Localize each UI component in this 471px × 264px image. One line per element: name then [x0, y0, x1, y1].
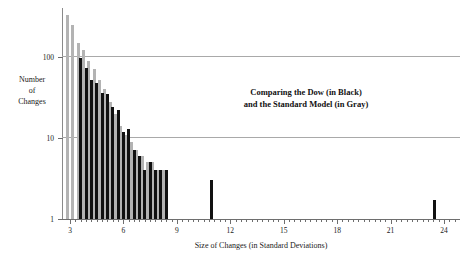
bar-dow-10 [133, 150, 136, 219]
x-minor-tick [407, 219, 408, 222]
x-minor-tick [326, 219, 327, 222]
y-tick-10 [58, 138, 63, 139]
bar-dow-8 [122, 132, 125, 220]
x-minor-tick [172, 219, 173, 222]
x-minor-tick [86, 219, 87, 222]
x-minor-tick [107, 219, 108, 222]
x-minor-tick [81, 219, 82, 222]
x-tick-label-24: 24 [440, 226, 448, 235]
x-minor-tick [161, 219, 162, 222]
x-minor-tick [220, 219, 221, 222]
chart-annotation: Comparing the Dow (in Black) and the Sta… [206, 86, 406, 110]
x-minor-tick [198, 219, 199, 222]
x-minor-tick [369, 219, 370, 222]
bar-dow-13 [149, 162, 152, 219]
bar-dow-9 [127, 129, 130, 219]
x-major-tick-18 [337, 219, 338, 224]
bar-dow-11 [138, 156, 141, 219]
bar-dow-14 [154, 170, 157, 219]
x-major-tick-21 [391, 219, 392, 224]
x-minor-tick [358, 219, 359, 222]
x-minor-tick [166, 219, 167, 222]
bar-dow-7 [117, 110, 120, 219]
bar-dow-4 [101, 93, 104, 219]
x-minor-tick [401, 219, 402, 222]
x-minor-tick [236, 219, 237, 222]
x-minor-tick [139, 219, 140, 222]
annotation-line-1: Comparing the Dow (in Black) [206, 86, 406, 98]
x-minor-tick [353, 219, 354, 222]
x-tick-label-18: 18 [333, 226, 341, 235]
x-minor-tick [113, 219, 114, 222]
x-major-tick-9 [177, 219, 178, 224]
x-minor-tick [294, 219, 295, 222]
bar-dow-12 [143, 170, 146, 219]
x-minor-tick [134, 219, 135, 222]
y-axis-label-line-1: Number [8, 74, 56, 85]
x-minor-tick [278, 219, 279, 222]
x-minor-tick [225, 219, 226, 222]
bar-dow-2 [90, 80, 93, 219]
x-minor-tick [182, 219, 183, 222]
x-minor-tick [348, 219, 349, 222]
x-minor-tick [273, 219, 274, 222]
x-minor-tick [241, 219, 242, 222]
x-major-tick-3 [70, 219, 71, 224]
x-tick-label-3: 3 [68, 226, 72, 235]
x-tick-label-12: 12 [227, 226, 235, 235]
x-minor-tick [97, 219, 98, 222]
x-minor-tick [204, 219, 205, 222]
x-minor-tick [150, 219, 151, 222]
x-minor-tick [102, 219, 103, 222]
x-tick-label-15: 15 [280, 226, 288, 235]
gridline-y-100 [62, 56, 460, 57]
bar-dow-6 [111, 107, 114, 219]
x-minor-tick [246, 219, 247, 222]
x-major-tick-15 [284, 219, 285, 224]
x-minor-tick [209, 219, 210, 222]
bar-model-0 [66, 15, 69, 219]
y-tick-100 [58, 57, 63, 58]
bar-dow-18 [433, 200, 436, 219]
bar-dow-16 [165, 170, 168, 219]
x-minor-tick [155, 219, 156, 222]
bar-model-1 [71, 25, 74, 219]
x-minor-tick [433, 219, 434, 222]
y-tick-label-100: 100 [28, 52, 54, 61]
x-minor-tick [364, 219, 365, 222]
x-minor-tick [396, 219, 397, 222]
x-minor-tick [289, 219, 290, 222]
x-minor-tick [193, 219, 194, 222]
x-minor-tick [118, 219, 119, 222]
annotation-line-2: and the Standard Model (in Gray) [206, 98, 406, 110]
bar-dow-1 [85, 68, 88, 219]
y-axis-label: Number of Changes [8, 74, 56, 107]
y-tick-1 [58, 219, 63, 220]
x-minor-tick [375, 219, 376, 222]
x-minor-tick [455, 219, 456, 222]
bar-dow-0 [79, 58, 82, 219]
x-tick-label-6: 6 [122, 226, 126, 235]
x-minor-tick [380, 219, 381, 222]
x-tick-label-9: 9 [175, 226, 179, 235]
plot-area [62, 8, 460, 219]
x-major-tick-24 [444, 219, 445, 224]
y-tick-label-10: 10 [28, 133, 54, 142]
x-tick-label-21: 21 [387, 226, 395, 235]
bar-dow-15 [159, 170, 162, 219]
bar-dow-5 [106, 94, 109, 219]
y-axis-label-line-2: of [8, 85, 56, 96]
x-minor-tick [423, 219, 424, 222]
x-major-tick-12 [230, 219, 231, 224]
x-minor-tick [75, 219, 76, 222]
x-axis-label: Size of Changes (in Standard Deviations) [62, 241, 460, 250]
x-minor-tick [214, 219, 215, 222]
x-minor-tick [439, 219, 440, 222]
x-minor-tick [252, 219, 253, 222]
x-minor-tick [145, 219, 146, 222]
x-minor-tick [129, 219, 130, 222]
y-axis-label-line-3: Changes [8, 96, 56, 107]
x-major-tick-6 [123, 219, 124, 224]
x-minor-tick [300, 219, 301, 222]
chart-container: 3691215182124110100 Number of Changes Si… [0, 0, 471, 264]
